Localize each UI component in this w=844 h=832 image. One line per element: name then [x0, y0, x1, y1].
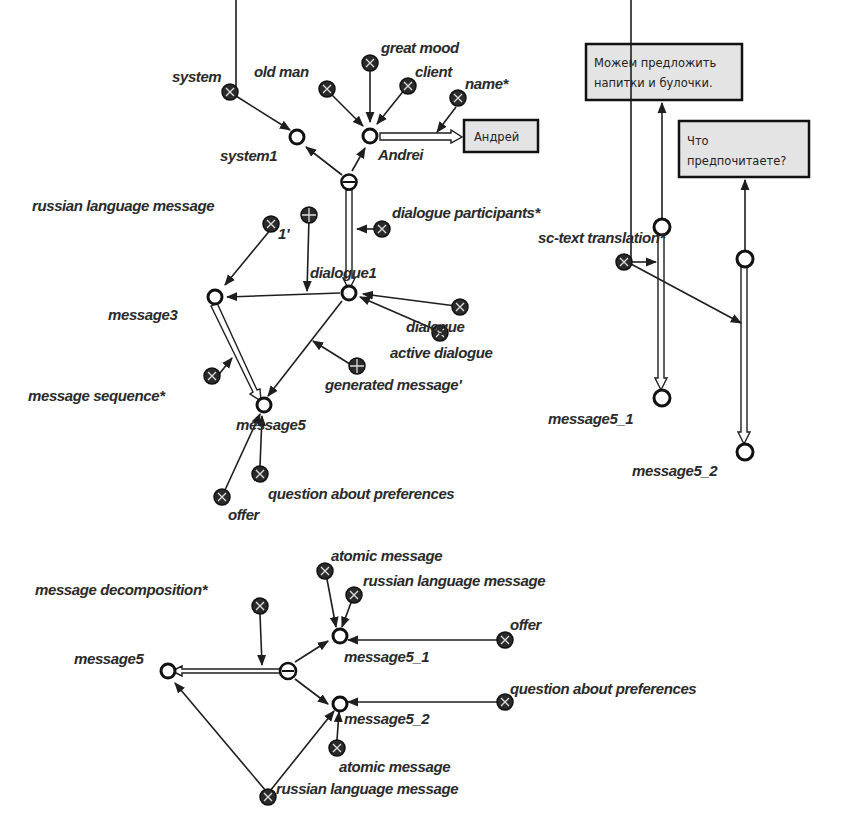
- edge-russian-message3: [225, 229, 271, 285]
- label-andrei: Andrei: [377, 146, 424, 163]
- svg-text:напитки и булочки.: напитки и булочки.: [594, 76, 713, 90]
- node-message5-2-bottom[interactable]: [333, 697, 347, 711]
- node-tuple-participants[interactable]: [342, 175, 357, 190]
- edge-russian-message5-2: [270, 711, 334, 791]
- edge-tuple-andrei: [352, 148, 365, 171]
- label-dialogue-participants: dialogue participants*: [392, 204, 541, 221]
- edge-message3-message5: [211, 303, 261, 401]
- label-message-decomposition: message decomposition*: [35, 581, 209, 598]
- node-client[interactable]: [400, 78, 416, 94]
- edge-link2-message5-2: [738, 267, 750, 444]
- label-question-about-preferences: question about preferences: [268, 485, 454, 502]
- node-atomic-message-top[interactable]: [317, 563, 333, 579]
- label-generated-message: generated message': [324, 376, 462, 393]
- label-old-man: old man: [254, 63, 309, 80]
- node-message3[interactable]: [208, 290, 222, 304]
- label-russian-language-message-bottom: russian language message: [276, 780, 458, 797]
- edge-tuple-message5-2: [295, 679, 328, 704]
- node-system1[interactable]: [290, 130, 304, 144]
- edge-atomic-message5-2: [337, 712, 339, 740]
- label-russian-language-message-top: russian language message: [363, 572, 545, 589]
- edge-decomposition-link: [260, 614, 262, 665]
- node-dialogue[interactable]: [452, 299, 468, 315]
- edge-client-andrei: [377, 89, 405, 124]
- edge-generated-link: [313, 341, 353, 366]
- label-great-mood: great mood: [380, 39, 460, 56]
- node-russian-language-message-top[interactable]: [346, 587, 362, 603]
- fragment-top-right: Можем предложить напитки и булочки. Что …: [538, 0, 809, 479]
- label-system1: system1: [220, 147, 277, 164]
- node-offer[interactable]: [214, 489, 230, 505]
- node-generated-message[interactable]: [349, 358, 365, 374]
- svg-text:Что: Что: [687, 134, 709, 148]
- label-russian-language-message: russian language message: [32, 197, 214, 214]
- node-andrei[interactable]: [363, 129, 377, 143]
- label-dialogue1: dialogue1: [310, 264, 376, 281]
- label-system: system: [172, 68, 221, 85]
- label-name: name*: [465, 75, 510, 92]
- node-name[interactable]: [450, 90, 466, 106]
- edge-tuple-system1: [306, 147, 342, 175]
- node-message5-1-bottom[interactable]: [333, 629, 347, 643]
- label-offer: offer: [228, 506, 261, 523]
- label-dialogue: dialogue: [406, 318, 465, 335]
- label-message5-2-bottom: message5_2: [344, 710, 430, 727]
- node-1[interactable]: [301, 207, 317, 223]
- text-box-offer: Можем предложить напитки и булочки.: [586, 44, 742, 100]
- node-tuple-decomposition[interactable]: [280, 663, 296, 679]
- node-offer-bottom[interactable]: [497, 632, 513, 648]
- edge-russian-message5-1: [342, 600, 352, 627]
- fragment-bottom: atomic message russian language message …: [35, 547, 696, 805]
- text-box-question: Что предпочитаете?: [679, 121, 809, 177]
- edge-1-link: [307, 218, 309, 291]
- label-message5-1-right: message5_1: [548, 410, 633, 427]
- svg-text:Андрей: Андрей: [474, 130, 519, 144]
- node-system[interactable]: [222, 84, 238, 100]
- label-message3: message3: [108, 306, 178, 323]
- edge-atomic-message5-1: [326, 574, 336, 627]
- node-dialogue-participants[interactable]: [374, 221, 390, 237]
- node-message-sequence[interactable]: [204, 368, 220, 384]
- node-sc-text-translation[interactable]: [616, 254, 632, 270]
- node-dialogue1[interactable]: [342, 286, 356, 300]
- node-question-about-preferences[interactable]: [252, 466, 268, 482]
- edge-translation-link2: [631, 264, 741, 323]
- label-message5: message5: [236, 416, 306, 433]
- label-message-sequence: message sequence*: [28, 387, 166, 404]
- label-atomic-message-bottom: atomic message: [339, 758, 450, 775]
- node-message-decomposition[interactable]: [252, 598, 268, 614]
- edge-tuple-message5-1: [295, 641, 328, 662]
- node-message5[interactable]: [257, 398, 271, 412]
- node-great-mood[interactable]: [362, 55, 378, 71]
- label-active-dialogue: active dialogue: [390, 344, 492, 361]
- node-message5-1-right[interactable]: [654, 390, 670, 406]
- edge-oldman-andrei: [330, 93, 363, 126]
- edge-dialogue1-message3: [227, 293, 340, 297]
- label-message5-1-bottom: message5_1: [344, 648, 429, 665]
- node-message5-bottom[interactable]: [161, 664, 175, 678]
- label-atomic-message-top: atomic message: [331, 547, 442, 564]
- label-offer-bottom: offer: [510, 616, 543, 633]
- value-box-andrei: Андрей: [464, 120, 538, 152]
- edge-link1-message5-1: [655, 235, 667, 390]
- label-sc-text-translation: sc-text translation*: [538, 229, 667, 246]
- label-message5-bottom: message5: [74, 650, 144, 667]
- label-message5-2-right: message5_2: [632, 462, 718, 479]
- node-atomic-message-bottom[interactable]: [329, 740, 345, 756]
- edge-andrei-to-value: [380, 130, 462, 143]
- label-client: client: [415, 63, 453, 80]
- node-russian-language-message-bottom[interactable]: [260, 789, 276, 805]
- node-message5-2-right[interactable]: [737, 444, 753, 460]
- svg-text:Можем предложить: Можем предложить: [594, 56, 716, 70]
- node-link2[interactable]: [737, 251, 753, 267]
- node-russian-language-message[interactable]: [263, 216, 279, 232]
- edge-name-to-link: [437, 107, 456, 132]
- label-question-about-preferences-bottom: question about preferences: [510, 680, 696, 697]
- fragment-top-left: Андрей system old man great mood client …: [28, 0, 541, 523]
- edge-system-system1: [236, 96, 290, 130]
- label-1: 1': [278, 225, 290, 242]
- semantic-network-diagram: Андрей system old man great mood client …: [0, 0, 844, 832]
- edge-russian-message5: [175, 683, 266, 791]
- edge-tuple-message5: [172, 666, 281, 676]
- node-old-man[interactable]: [319, 81, 335, 97]
